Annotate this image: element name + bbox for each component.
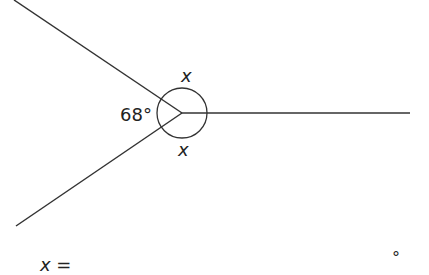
known-angle-label: 68° — [120, 106, 152, 124]
lower-angle-label-x: x — [178, 141, 189, 159]
upper-angle-label-x: x — [181, 67, 192, 85]
lower-left-ray — [16, 113, 182, 226]
upper-left-ray — [14, 0, 182, 113]
answer-degree-symbol: ° — [392, 250, 400, 266]
answer-prefix: x = — [40, 256, 71, 274]
